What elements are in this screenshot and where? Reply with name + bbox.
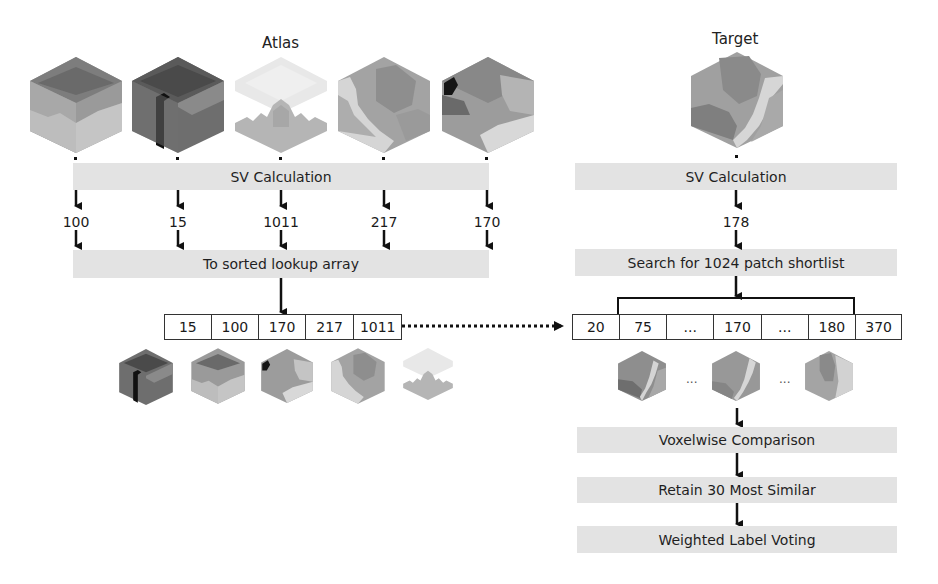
sorted-cube-4-icon bbox=[330, 347, 386, 405]
sorted-lookup-array: 15 100 170 217 1011 bbox=[164, 314, 402, 340]
array-cell: 20 bbox=[573, 315, 620, 339]
array-cell: 75 bbox=[620, 315, 668, 339]
array-cell: 100 bbox=[212, 315, 260, 339]
array-cell: 1011 bbox=[354, 315, 401, 339]
target-sv-value: 178 bbox=[722, 214, 751, 230]
voxelwise-comparison-step: Voxelwise Comparison bbox=[577, 427, 897, 453]
retain-most-similar-step: Retain 30 Most Similar bbox=[577, 477, 897, 503]
array-cell: ... bbox=[762, 315, 809, 339]
atlas-sv-value-5: 170 bbox=[473, 214, 502, 230]
array-cell: 170 bbox=[259, 315, 306, 339]
array-cell: 170 bbox=[714, 315, 762, 339]
array-cell: 217 bbox=[306, 315, 355, 339]
shortlist-cube-3-icon bbox=[804, 349, 854, 403]
shortlist-cube-1-icon bbox=[617, 349, 667, 403]
sorted-cube-3-icon bbox=[260, 347, 314, 405]
sorted-cube-2-icon bbox=[190, 347, 246, 405]
shortlist-ellipsis-1: ... bbox=[686, 372, 697, 386]
array-cell: ... bbox=[667, 315, 714, 339]
sorted-cube-1-icon bbox=[118, 347, 174, 407]
array-cell: 15 bbox=[165, 315, 212, 339]
atlas-sv-value-2: 15 bbox=[168, 214, 188, 230]
shortlist-ellipsis-2: ... bbox=[779, 372, 790, 386]
sorted-cube-5-icon bbox=[400, 347, 456, 401]
array-cell: 180 bbox=[809, 315, 857, 339]
target-shortlist-array: 20 75 ... 170 ... 180 370 bbox=[572, 314, 902, 340]
atlas-sv-value-4: 217 bbox=[370, 214, 399, 230]
atlas-sv-value-1: 100 bbox=[62, 214, 91, 230]
atlas-sv-value-3: 1011 bbox=[262, 214, 300, 230]
shortlist-cube-2-icon bbox=[711, 349, 761, 403]
weighted-label-voting-step: Weighted Label Voting bbox=[577, 526, 897, 553]
array-cell: 370 bbox=[856, 315, 901, 339]
